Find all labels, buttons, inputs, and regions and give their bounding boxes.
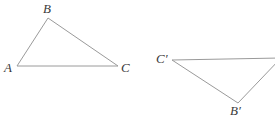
vertex-label-c-prime: C′ (156, 52, 168, 65)
vertex-label-c: C (121, 61, 130, 74)
geometry-figure: A B C C′ B′ (0, 0, 275, 123)
vertex-label-a: A (4, 61, 12, 74)
triangle-abc-outline (17, 18, 118, 66)
vertex-label-b-prime: B′ (230, 104, 241, 117)
vertex-label-b: B (43, 2, 51, 15)
triangle-a-prime-b-prime-c-prime-outline (172, 58, 275, 103)
